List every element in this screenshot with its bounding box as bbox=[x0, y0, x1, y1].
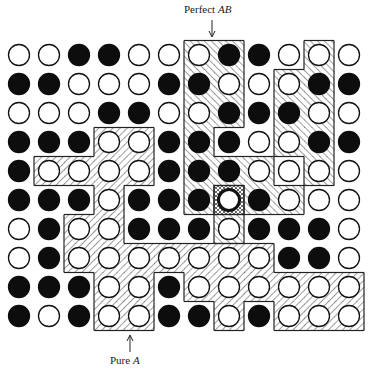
b-atom-icon bbox=[69, 132, 90, 153]
a-atom-icon bbox=[279, 306, 300, 327]
a-atom-icon bbox=[39, 45, 60, 66]
b-atom-icon bbox=[189, 219, 210, 240]
a-atom-icon bbox=[219, 219, 240, 240]
a-atom-icon bbox=[339, 306, 360, 327]
b-atom-icon bbox=[69, 277, 90, 298]
a-atom-icon bbox=[129, 277, 150, 298]
a-atom-icon bbox=[129, 74, 150, 95]
a-atom-icon bbox=[249, 248, 270, 269]
a-atom-icon bbox=[279, 161, 300, 182]
a-atom-icon bbox=[159, 248, 180, 269]
b-atom-icon bbox=[129, 190, 150, 211]
lattice-svg bbox=[0, 0, 376, 371]
a-atom-icon bbox=[339, 45, 360, 66]
pure-a-label: Pure A bbox=[110, 354, 140, 366]
b-atom-icon bbox=[189, 74, 210, 95]
a-atom-icon bbox=[99, 132, 120, 153]
b-atom-icon bbox=[219, 132, 240, 153]
a-atom-icon bbox=[99, 161, 120, 182]
b-atom-icon bbox=[189, 190, 210, 211]
a-atom-icon bbox=[129, 45, 150, 66]
a-atom-icon bbox=[39, 161, 60, 182]
b-atom-icon bbox=[39, 219, 60, 240]
a-atom-icon bbox=[249, 277, 270, 298]
a-atom-icon bbox=[9, 45, 30, 66]
b-atom-icon bbox=[9, 190, 30, 211]
a-atom-icon bbox=[99, 219, 120, 240]
a-atom-icon bbox=[129, 306, 150, 327]
b-atom-icon bbox=[339, 74, 360, 95]
a-atom-icon bbox=[309, 190, 330, 211]
a-atom-icon bbox=[99, 306, 120, 327]
a-atom-icon bbox=[69, 74, 90, 95]
b-atom-icon bbox=[39, 190, 60, 211]
b-atom-icon bbox=[159, 219, 180, 240]
b-atom-icon bbox=[339, 132, 360, 153]
b-atom-icon bbox=[279, 219, 300, 240]
a-atom-icon bbox=[69, 248, 90, 269]
highlighted-a-atom-icon bbox=[219, 190, 240, 211]
a-atom-icon bbox=[309, 103, 330, 124]
b-atom-icon bbox=[159, 132, 180, 153]
a-atom-icon bbox=[9, 219, 30, 240]
b-atom-icon bbox=[249, 103, 270, 124]
a-atom-icon bbox=[219, 248, 240, 269]
a-atom-icon bbox=[309, 306, 330, 327]
b-atom-icon bbox=[69, 45, 90, 66]
b-atom-icon bbox=[9, 132, 30, 153]
b-atom-icon bbox=[309, 74, 330, 95]
b-atom-icon bbox=[9, 277, 30, 298]
a-atom-icon bbox=[249, 132, 270, 153]
a-atom-icon bbox=[339, 161, 360, 182]
a-atom-icon bbox=[159, 45, 180, 66]
a-atom-icon bbox=[99, 190, 120, 211]
a-atom-icon bbox=[129, 248, 150, 269]
b-atom-icon bbox=[9, 306, 30, 327]
a-atom-icon bbox=[39, 103, 60, 124]
a-atom-icon bbox=[339, 277, 360, 298]
a-atom-icon bbox=[219, 74, 240, 95]
a-atom-icon bbox=[189, 103, 210, 124]
b-atom-icon bbox=[159, 161, 180, 182]
a-atom-icon bbox=[309, 161, 330, 182]
b-atom-icon bbox=[309, 132, 330, 153]
b-atom-icon bbox=[99, 103, 120, 124]
a-atom-icon bbox=[39, 306, 60, 327]
perfect-ab-label: Perfect AB bbox=[184, 3, 231, 15]
b-atom-icon bbox=[39, 248, 60, 269]
b-atom-icon bbox=[189, 132, 210, 153]
b-atom-icon bbox=[219, 161, 240, 182]
b-atom-icon bbox=[219, 45, 240, 66]
b-atom-icon bbox=[309, 219, 330, 240]
a-atom-icon bbox=[129, 132, 150, 153]
b-atom-icon bbox=[129, 103, 150, 124]
a-atom-icon bbox=[279, 132, 300, 153]
a-atom-icon bbox=[69, 161, 90, 182]
a-atom-icon bbox=[159, 103, 180, 124]
a-atom-icon bbox=[219, 277, 240, 298]
b-atom-icon bbox=[249, 190, 270, 211]
b-atom-icon bbox=[279, 248, 300, 269]
b-atom-icon bbox=[159, 190, 180, 211]
a-atom-icon bbox=[69, 103, 90, 124]
b-atom-icon bbox=[69, 306, 90, 327]
a-atom-icon bbox=[189, 248, 210, 269]
a-atom-icon bbox=[339, 248, 360, 269]
a-atom-icon bbox=[339, 219, 360, 240]
a-atom-icon bbox=[219, 306, 240, 327]
perfect-ab-label-text: Perfect bbox=[184, 3, 218, 15]
a-atom-icon bbox=[279, 190, 300, 211]
a-atom-icon bbox=[309, 45, 330, 66]
b-atom-icon bbox=[309, 248, 330, 269]
b-atom-icon bbox=[249, 45, 270, 66]
b-atom-icon bbox=[159, 74, 180, 95]
b-atom-icon bbox=[219, 103, 240, 124]
pure-a-label-text: Pure bbox=[110, 354, 133, 366]
a-atom-icon bbox=[339, 103, 360, 124]
a-atom-icon bbox=[99, 74, 120, 95]
a-atom-icon bbox=[279, 74, 300, 95]
b-atom-icon bbox=[189, 161, 210, 182]
b-atom-icon bbox=[249, 306, 270, 327]
a-atom-icon bbox=[9, 103, 30, 124]
b-atom-icon bbox=[279, 103, 300, 124]
